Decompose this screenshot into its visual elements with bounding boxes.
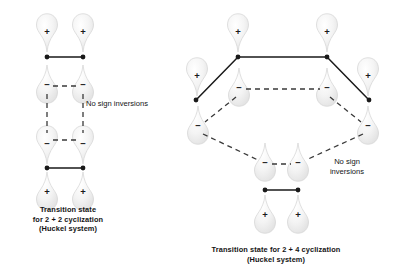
sign-labels-layer: ++−−−−++++++−−−−−−++ [44, 26, 371, 220]
orbital-sign-R-mid-left-out: + [194, 70, 200, 81]
orbital-sign-L-upper-mid-left: − [44, 79, 50, 90]
orbital-sign-R-inner-left: − [236, 82, 242, 93]
orbital-sign-L-lower-mid-right: − [80, 138, 86, 149]
orbital-sign-R-mid-right-out: + [365, 70, 371, 81]
orbital-sign-R-base-right: + [295, 209, 301, 220]
orbital-lobes-layer [37, 14, 379, 234]
orbital-sign-L-bottom-right: + [80, 186, 86, 197]
bond-dot-left-1a [45, 166, 50, 171]
bond-dot-left-0a [45, 55, 50, 60]
bond-dot-left-0b [81, 55, 86, 60]
orbital-sign-R-top-right: + [324, 26, 330, 37]
vertex-dot-right-0 [236, 55, 241, 60]
orbital-sign-L-upper-mid-right: − [80, 79, 86, 90]
caption-2plus2-transition-state: Transition state for 2 + 2 cyclization (… [2, 205, 134, 234]
vertex-dot-right-2 [194, 98, 199, 103]
orbital-sign-R-top-left: + [235, 26, 241, 37]
orbital-sign-R-inner-right: − [324, 82, 330, 93]
vertex-dot-right-5 [296, 188, 301, 193]
note-no-sign-inversions-left: No sign inversions [86, 99, 172, 109]
orbital-sign-R-low-right-out: − [365, 120, 371, 131]
note-no-sign-inversions-right: No sign inversions [316, 157, 378, 176]
orbital-sign-L-top-left: + [44, 26, 50, 37]
orbital-sign-R-bottom-left: − [262, 157, 268, 168]
orbital-diagram-figure: ++−−−−++++++−−−−−−++ No sign inversions … [0, 0, 394, 276]
vertex-dot-right-1 [325, 55, 330, 60]
orbital-sign-L-lower-mid-left: − [44, 138, 50, 149]
orbital-sign-L-top-right: + [80, 26, 86, 37]
bond-dot-left-1b [81, 166, 86, 171]
orbital-sign-L-bottom-left: + [44, 186, 50, 197]
orbital-sign-R-bottom-right: − [295, 157, 301, 168]
orbital-sign-R-low-left-out: − [195, 120, 201, 131]
diagram-canvas: ++−−−−++++++−−−−−−++ [0, 0, 394, 276]
vertex-dot-right-4 [263, 188, 268, 193]
vertex-dot-right-3 [367, 98, 372, 103]
orbital-sign-R-base-left: + [262, 209, 268, 220]
caption-2plus4-transition-state: Transition state for 2 + 4 cyclization (… [186, 245, 366, 264]
dashed-bond-right-3 [203, 134, 258, 160]
